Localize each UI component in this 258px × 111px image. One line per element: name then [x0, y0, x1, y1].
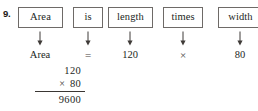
word-box-is: is	[73, 7, 103, 28]
word-box-label: Area	[30, 12, 51, 23]
vertical-multiplication: 120 × 80 9600	[29, 64, 85, 106]
multiplication-rule-line	[35, 91, 85, 92]
word-equation-boxes: Area is length times width	[0, 7, 258, 30]
word-box-length: length	[108, 7, 153, 28]
multiplicand-row: 120	[29, 64, 85, 77]
equation-term-width: 80	[235, 47, 246, 63]
word-box-times: times	[163, 7, 203, 28]
down-arrow-icon	[126, 31, 135, 46]
multiplication-sign-icon: ×	[59, 77, 65, 90]
word-box-label: is	[84, 12, 91, 23]
equation-term-area: Area	[30, 47, 50, 63]
word-box-area: Area	[18, 7, 63, 28]
word-box-width: width	[218, 7, 258, 28]
word-box-label: width	[228, 12, 252, 23]
equation-term-length: 120	[122, 47, 138, 63]
down-arrow-icon	[179, 31, 188, 46]
down-arrow-icon	[236, 31, 245, 46]
down-arrow-icon	[84, 31, 93, 46]
equals-sign: =	[85, 47, 91, 63]
word-box-label: length	[117, 12, 144, 23]
multiplicand-value: 120	[64, 64, 81, 77]
arrow-row	[0, 31, 258, 46]
translated-equation-row: Area = 120 × 80	[0, 47, 258, 63]
multiplier-row: × 80	[29, 77, 85, 90]
down-arrow-icon	[36, 31, 45, 46]
multiplier-value: 80	[70, 77, 81, 90]
product-value: 9600	[59, 93, 81, 106]
multiplication-sign: ×	[180, 47, 186, 63]
word-box-label: times	[171, 12, 194, 23]
product-row: 9600	[29, 93, 85, 106]
